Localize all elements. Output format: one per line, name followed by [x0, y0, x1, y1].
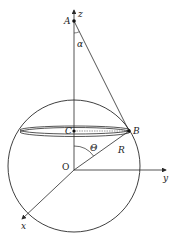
label-z: z: [77, 9, 83, 19]
label-theta: Θ: [90, 143, 98, 153]
label-alpha: α: [77, 39, 83, 49]
point-B: [127, 129, 131, 133]
point-A: [72, 19, 76, 23]
label-R: R: [117, 145, 125, 155]
label-y: y: [162, 173, 169, 183]
label-B: B: [132, 126, 140, 136]
x-axis: [22, 170, 74, 219]
label-x: x: [21, 221, 26, 231]
label-O: O: [62, 162, 69, 172]
point-C: [72, 129, 75, 132]
sphere-diagram: A z α C B Θ R O y x: [0, 0, 178, 243]
label-C: C: [65, 126, 72, 136]
angle-alpha-arc: [74, 32, 79, 33]
segment-AB: [74, 21, 129, 131]
label-A: A: [63, 16, 71, 26]
